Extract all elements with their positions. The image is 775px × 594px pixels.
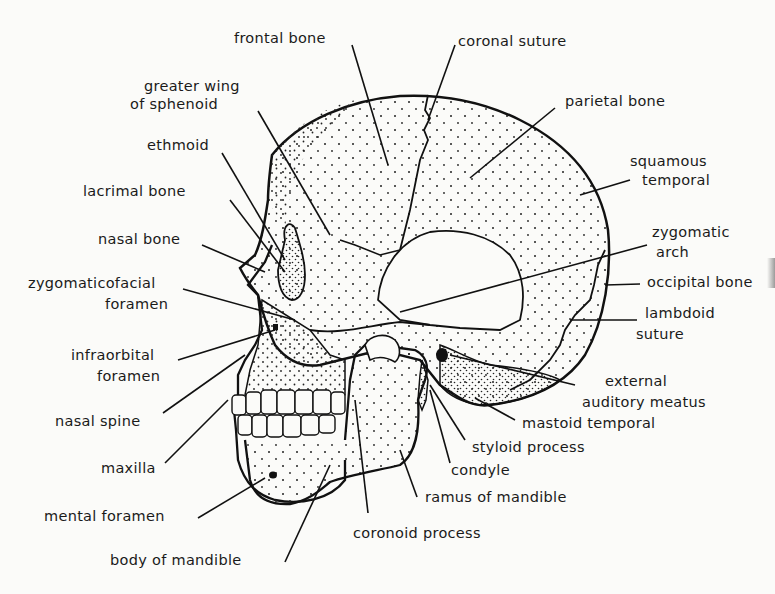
label-greater-wing-1: greater wing: [144, 78, 240, 95]
label-ramus-of-mandible: ramus of mandible: [425, 489, 567, 506]
label-infraorbital-2: foramen: [97, 368, 160, 385]
label-frontal-bone: frontal bone: [234, 30, 326, 47]
label-external-auditory-2: auditory meatus: [582, 394, 706, 411]
label-lambdoid-2: suture: [636, 326, 684, 343]
label-parietal-bone: parietal bone: [565, 93, 665, 110]
condyle-outline: [365, 335, 400, 362]
label-coronal-suture: coronal suture: [458, 33, 566, 50]
label-mastoid-temporal: mastoid temporal: [522, 415, 655, 432]
skull-diagram: frontal bone coronal suture greater wing…: [0, 0, 775, 594]
label-squamous-1: squamous: [630, 153, 707, 170]
label-styloid-process: styloid process: [472, 439, 585, 456]
label-nasal-bone: nasal bone: [98, 231, 180, 248]
label-lacrimal-bone: lacrimal bone: [83, 183, 186, 200]
infraorbital-foramen: [273, 324, 278, 330]
label-greater-wing-2: of sphenoid: [130, 96, 218, 113]
label-body-of-mandible: body of mandible: [110, 552, 241, 569]
label-ethmoid: ethmoid: [147, 137, 209, 154]
mental-foramen: [269, 472, 277, 479]
label-infraorbital-1: infraorbital: [71, 347, 154, 364]
label-external-auditory-1: external: [605, 373, 667, 390]
label-lambdoid-1: lambdoid: [645, 305, 715, 322]
label-mental-foramen: mental foramen: [44, 508, 165, 525]
label-coronoid-process: coronoid process: [353, 525, 481, 542]
label-zygomaticofacial-2: foramen: [105, 296, 168, 313]
label-zygomatic-arch-1: zygomatic: [652, 224, 730, 241]
label-squamous-2: temporal: [642, 172, 710, 189]
label-zygomatic-arch-2: arch: [656, 244, 689, 261]
external-auditory-meatus: [436, 348, 448, 362]
label-condyle: condyle: [451, 462, 510, 479]
label-occipital-bone: occipital bone: [647, 274, 753, 291]
label-zygomaticofacial-1: zygomaticofacial: [28, 275, 156, 292]
label-nasal-spine: nasal spine: [55, 413, 140, 430]
teeth: [232, 390, 345, 437]
label-maxilla: maxilla: [101, 460, 156, 477]
page-edge-shadow: [767, 258, 775, 288]
